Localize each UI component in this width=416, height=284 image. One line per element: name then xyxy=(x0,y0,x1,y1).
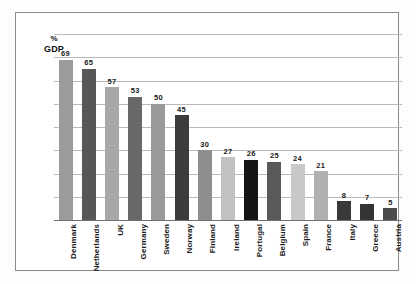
bar-value-label: 30 xyxy=(200,140,209,149)
bar xyxy=(291,164,305,220)
bar-group: 45 xyxy=(175,34,189,220)
bar-group: 21 xyxy=(314,34,328,220)
x-axis-tick-label: Italy xyxy=(348,224,357,241)
bar-group: 53 xyxy=(128,34,142,220)
bar-group: 65 xyxy=(82,34,96,220)
bar-value-label: 26 xyxy=(247,149,256,158)
bar xyxy=(82,69,96,220)
bar-value-label: 50 xyxy=(154,93,163,102)
bar-group: 69 xyxy=(59,34,73,220)
bar xyxy=(198,150,212,220)
bar-value-label: 57 xyxy=(108,77,117,86)
x-axis-tick-label: Ireland xyxy=(232,224,241,251)
x-axis-tick-label: Portugal xyxy=(255,224,264,257)
bar-value-label: 69 xyxy=(61,49,70,58)
bar-value-label: 27 xyxy=(224,147,233,156)
bar xyxy=(314,171,328,220)
x-axis-tick-label: Norway xyxy=(185,224,194,254)
x-axis-tick-label: Sweden xyxy=(162,224,171,255)
bar-group: 8 xyxy=(337,34,351,220)
bar-value-label: 45 xyxy=(177,105,186,114)
bar-group: 24 xyxy=(291,34,305,220)
bar xyxy=(128,97,142,220)
x-axis-tick-label: Austria xyxy=(394,224,403,252)
plot-area: 696557535045302726252421875 xyxy=(54,34,402,220)
bar xyxy=(175,115,189,220)
bar-group: 25 xyxy=(267,34,281,220)
x-axis-tick-label: France xyxy=(324,224,333,251)
bar xyxy=(383,208,397,220)
x-axis-line xyxy=(54,220,402,221)
bar-group: 57 xyxy=(105,34,119,220)
x-axis-tick-label: Germany xyxy=(139,224,148,259)
x-axis-tick-label: Netherlands xyxy=(92,224,101,271)
bar xyxy=(244,160,258,220)
bar-group: 50 xyxy=(151,34,165,220)
bar-group: 30 xyxy=(198,34,212,220)
bar-value-label: 8 xyxy=(342,191,346,200)
bar xyxy=(267,162,281,220)
bar-group: 27 xyxy=(221,34,235,220)
bar-value-label: 24 xyxy=(293,154,302,163)
chart-figure: % GDP 696557535045302726252421875 Denmar… xyxy=(0,0,416,284)
bar xyxy=(59,60,73,220)
bar-group: 7 xyxy=(360,34,374,220)
x-axis-tick-label: Spain xyxy=(301,224,310,246)
x-axis-tick-label: Finland xyxy=(208,224,217,253)
bar xyxy=(360,204,374,220)
x-axis-tick-label: Belgium xyxy=(278,224,287,256)
bar xyxy=(221,157,235,220)
bar-value-label: 5 xyxy=(388,198,392,207)
bar-group: 5 xyxy=(383,34,397,220)
bar xyxy=(337,201,351,220)
bar-value-label: 53 xyxy=(131,86,140,95)
x-axis-tick-label: UK xyxy=(116,224,125,236)
bar-value-label: 25 xyxy=(270,151,279,160)
bar-value-label: 7 xyxy=(365,193,369,202)
bar-value-label: 65 xyxy=(84,58,93,67)
bar xyxy=(105,87,119,220)
x-axis-tick-label: Denmark xyxy=(69,224,78,259)
x-axis-tick-label: Greece xyxy=(371,224,380,252)
bar-value-label: 21 xyxy=(316,161,325,170)
bar xyxy=(151,104,165,220)
figure-frame: % GDP 696557535045302726252421875 Denmar… xyxy=(15,12,399,271)
bar-group: 26 xyxy=(244,34,258,220)
